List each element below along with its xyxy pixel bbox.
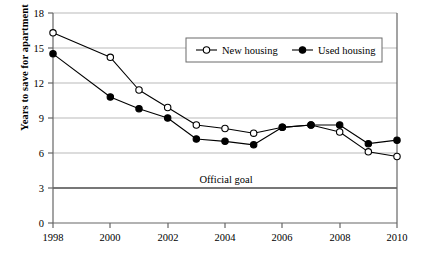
data-point[interactable]: Used housing 2008: 8.4 <box>336 122 342 128</box>
data-point[interactable]: Used housing 2007: 8.4 <box>308 122 314 128</box>
x-tick-label-2000: 2000 <box>100 232 121 243</box>
x-tick-label-2008: 2008 <box>330 232 351 243</box>
y-tick-label-12: 12 <box>34 78 45 89</box>
data-point[interactable]: Used housing 2009: 6.8 <box>365 140 371 146</box>
filled-circle-icon <box>299 47 305 53</box>
y-tick-label-0: 0 <box>39 218 44 229</box>
x-tick-label-2010: 2010 <box>387 232 408 243</box>
data-point[interactable]: Used housing 1998: 14.5 <box>50 51 56 57</box>
chart-legend[interactable]: New housing Used housing <box>186 38 382 62</box>
data-point[interactable]: New housing 2008: 7.8 <box>336 129 342 135</box>
data-point[interactable]: New housing 2001: 11.4 <box>136 87 142 93</box>
y-tick-label-15: 15 <box>34 43 45 54</box>
legend-label-used-housing: Used housing <box>318 45 376 56</box>
x-axis-ticks <box>53 223 397 228</box>
data-point[interactable]: New housing 1998: 16.3 <box>50 30 56 36</box>
x-tick-label-2004: 2004 <box>215 232 237 243</box>
data-point[interactable]: Used housing 2004: 7 <box>222 138 228 144</box>
open-circle-icon <box>203 47 209 53</box>
x-tick-label-1998: 1998 <box>43 232 64 243</box>
y-axis-tick-labels: 18 15 12 9 6 3 0 <box>34 8 45 229</box>
data-point[interactable]: New housing 2009: 6.1 <box>365 149 371 155</box>
x-tick-label-2006: 2006 <box>272 232 293 243</box>
y-axis-ticks <box>48 13 53 223</box>
legend-label-new-housing: New housing <box>222 45 278 56</box>
y-tick-label-9: 9 <box>39 113 44 124</box>
data-point[interactable]: New housing 2002: 9.9 <box>164 104 170 110</box>
y-tick-label-3: 3 <box>39 183 44 194</box>
line-chart: 18 15 12 9 6 3 0 1998 2000 2002 2004 200… <box>0 0 422 268</box>
data-point[interactable]: New housing 2010: 5.7 <box>394 153 400 159</box>
data-point[interactable]: Used housing 2006: 8.2 <box>279 124 285 130</box>
data-point[interactable]: Used housing 2003: 7.2 <box>193 136 199 142</box>
x-axis-tick-labels: 1998 2000 2002 2004 2006 2008 2010 <box>43 232 408 243</box>
data-point[interactable]: Used housing 2005: 6.7 <box>250 142 256 148</box>
data-point[interactable]: Used housing 2000: 10.8 <box>107 94 113 100</box>
data-point[interactable]: New housing 2003: 8.4 <box>193 122 199 128</box>
x-tick-label-2002: 2002 <box>158 232 179 243</box>
data-point[interactable]: New housing 2005: 7.7 <box>250 130 256 136</box>
y-tick-label-18: 18 <box>34 8 45 19</box>
official-goal-label: Official goal <box>199 174 252 185</box>
y-tick-label-6: 6 <box>39 148 44 159</box>
data-point[interactable]: Used housing 2010: 7.1 <box>394 137 400 143</box>
data-point[interactable]: New housing 2000: 14.2 <box>107 54 113 60</box>
chart-container: Years to save for apartment 18 <box>0 0 422 268</box>
data-point[interactable]: Used housing 2001: 9.8 <box>136 105 142 111</box>
series-used-housing: Used housing 1998: 14.5Used housing 2000… <box>50 51 400 148</box>
data-point[interactable]: Used housing 2002: 9 <box>164 115 170 121</box>
data-point[interactable]: New housing 2004: 8.1 <box>222 125 228 131</box>
